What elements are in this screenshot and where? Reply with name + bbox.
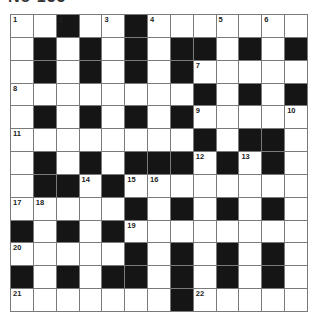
answer-cell[interactable] — [34, 289, 56, 311]
answer-cell[interactable] — [148, 84, 170, 106]
answer-cell[interactable] — [57, 289, 79, 311]
answer-cell[interactable] — [80, 289, 102, 311]
answer-cell[interactable] — [11, 175, 33, 197]
answer-cell[interactable] — [285, 152, 307, 174]
answer-cell[interactable]: 14 — [80, 175, 102, 197]
answer-cell[interactable]: 4 — [148, 15, 170, 37]
answer-cell[interactable] — [80, 84, 102, 106]
answer-cell[interactable] — [285, 61, 307, 83]
answer-cell[interactable] — [239, 61, 261, 83]
answer-cell[interactable] — [194, 15, 216, 37]
answer-cell[interactable] — [171, 15, 193, 37]
answer-cell[interactable] — [148, 243, 170, 265]
answer-cell[interactable]: 20 — [11, 243, 33, 265]
answer-cell[interactable] — [57, 61, 79, 83]
answer-cell[interactable] — [194, 243, 216, 265]
answer-cell[interactable] — [285, 266, 307, 288]
answer-cell[interactable] — [262, 38, 284, 60]
answer-cell[interactable] — [57, 84, 79, 106]
answer-cell[interactable]: 17 — [11, 198, 33, 220]
answer-cell[interactable]: 19 — [125, 221, 147, 243]
answer-cell[interactable] — [11, 106, 33, 128]
answer-cell[interactable] — [194, 175, 216, 197]
answer-cell[interactable]: 22 — [194, 289, 216, 311]
answer-cell[interactable] — [285, 289, 307, 311]
answer-cell[interactable]: 13 — [239, 152, 261, 174]
answer-cell[interactable] — [217, 221, 239, 243]
answer-cell[interactable]: 18 — [34, 198, 56, 220]
answer-cell[interactable] — [239, 221, 261, 243]
answer-cell[interactable] — [239, 175, 261, 197]
answer-cell[interactable] — [80, 266, 102, 288]
answer-cell[interactable] — [34, 221, 56, 243]
answer-cell[interactable] — [285, 198, 307, 220]
answer-cell[interactable] — [217, 106, 239, 128]
answer-cell[interactable] — [34, 243, 56, 265]
answer-cell[interactable]: 21 — [11, 289, 33, 311]
answer-cell[interactable] — [148, 61, 170, 83]
answer-cell[interactable] — [57, 106, 79, 128]
answer-cell[interactable] — [285, 15, 307, 37]
answer-cell[interactable]: 7 — [194, 61, 216, 83]
answer-cell[interactable] — [194, 198, 216, 220]
answer-cell[interactable]: 11 — [11, 129, 33, 151]
answer-cell[interactable] — [57, 243, 79, 265]
answer-cell[interactable] — [102, 84, 124, 106]
answer-cell[interactable] — [80, 198, 102, 220]
answer-cell[interactable] — [102, 152, 124, 174]
answer-cell[interactable] — [102, 129, 124, 151]
answer-cell[interactable] — [102, 198, 124, 220]
answer-cell[interactable] — [102, 243, 124, 265]
answer-cell[interactable]: 9 — [194, 106, 216, 128]
answer-cell[interactable] — [262, 175, 284, 197]
answer-cell[interactable] — [102, 61, 124, 83]
answer-cell[interactable]: 6 — [262, 15, 284, 37]
answer-cell[interactable] — [171, 84, 193, 106]
answer-cell[interactable] — [262, 289, 284, 311]
answer-cell[interactable] — [217, 289, 239, 311]
answer-cell[interactable] — [285, 243, 307, 265]
answer-cell[interactable] — [57, 198, 79, 220]
answer-cell[interactable]: 12 — [194, 152, 216, 174]
answer-cell[interactable] — [217, 61, 239, 83]
answer-cell[interactable] — [148, 198, 170, 220]
answer-cell[interactable] — [239, 289, 261, 311]
answer-cell[interactable] — [285, 175, 307, 197]
answer-cell[interactable] — [148, 221, 170, 243]
answer-cell[interactable] — [262, 221, 284, 243]
answer-cell[interactable] — [125, 289, 147, 311]
answer-cell[interactable] — [285, 221, 307, 243]
answer-cell[interactable] — [239, 243, 261, 265]
answer-cell[interactable]: 3 — [102, 15, 124, 37]
answer-cell[interactable] — [217, 129, 239, 151]
answer-cell[interactable] — [171, 175, 193, 197]
answer-cell[interactable] — [217, 38, 239, 60]
answer-cell[interactable] — [171, 221, 193, 243]
answer-cell[interactable] — [57, 129, 79, 151]
answer-cell[interactable]: 8 — [11, 84, 33, 106]
answer-cell[interactable] — [125, 129, 147, 151]
answer-cell[interactable] — [148, 266, 170, 288]
answer-cell[interactable] — [102, 106, 124, 128]
answer-cell[interactable] — [80, 243, 102, 265]
answer-cell[interactable] — [102, 289, 124, 311]
answer-cell[interactable] — [102, 38, 124, 60]
answer-cell[interactable] — [262, 84, 284, 106]
answer-cell[interactable] — [171, 129, 193, 151]
answer-cell[interactable] — [285, 129, 307, 151]
answer-cell[interactable] — [11, 61, 33, 83]
answer-cell[interactable] — [148, 289, 170, 311]
answer-cell[interactable] — [148, 129, 170, 151]
answer-cell[interactable] — [125, 84, 147, 106]
answer-cell[interactable] — [217, 84, 239, 106]
answer-cell[interactable] — [239, 266, 261, 288]
answer-cell[interactable] — [34, 15, 56, 37]
answer-cell[interactable] — [80, 129, 102, 151]
answer-cell[interactable] — [239, 15, 261, 37]
answer-cell[interactable] — [239, 106, 261, 128]
answer-cell[interactable] — [57, 38, 79, 60]
answer-cell[interactable] — [262, 61, 284, 83]
answer-cell[interactable]: 16 — [148, 175, 170, 197]
answer-cell[interactable] — [239, 198, 261, 220]
answer-cell[interactable] — [34, 266, 56, 288]
